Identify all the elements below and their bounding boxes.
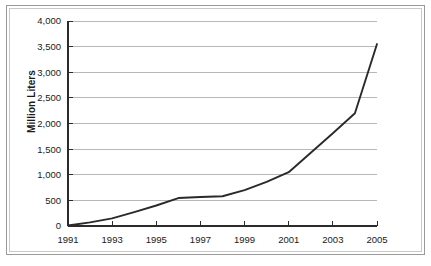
x-axis-tick-label: 1995: [146, 234, 167, 245]
x-axis-tick-labels: 19911993199519971999200120032005: [57, 234, 387, 245]
x-axis-tick-label: 1991: [57, 234, 78, 245]
y-axis-tick-label: 3,500: [37, 41, 61, 52]
y-axis-tick-label: 2,500: [37, 92, 61, 103]
series-line: [68, 44, 377, 225]
y-axis-tick-label: 3,000: [37, 67, 61, 78]
y-axis-tick-label: 1,000: [37, 169, 61, 180]
x-axis-tick-label: 1997: [190, 234, 211, 245]
x-axis-tick-label: 1993: [102, 234, 123, 245]
y-axis-tick-label: 0: [56, 220, 61, 231]
y-axis-tick-label: 500: [45, 195, 61, 206]
x-axis-tick-label: 2005: [366, 234, 387, 245]
y-axis-tick-label: 4,000: [37, 15, 61, 26]
chart-figure: Million Liters 05001,0001,5002,0002,5003…: [0, 0, 431, 266]
x-axis-tick-marks: [68, 221, 377, 226]
x-axis-tick-label: 1999: [234, 234, 255, 245]
x-axis-tick-label: 2003: [322, 234, 343, 245]
y-axis-tick-label: 1,500: [37, 144, 61, 155]
y-axis-tick-label: 2,000: [37, 118, 61, 129]
gridlines: [68, 21, 377, 200]
line-chart-svg: 05001,0001,5002,0002,5003,0003,5004,000 …: [0, 0, 431, 266]
data-series: [68, 44, 377, 225]
x-axis-tick-label: 2001: [278, 234, 299, 245]
